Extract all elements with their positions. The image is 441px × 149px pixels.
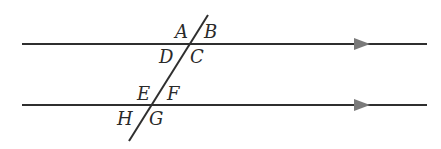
transversal-line xyxy=(129,15,208,141)
angle-label-d: D xyxy=(158,46,174,67)
angle-label-b: B xyxy=(203,21,217,42)
diagram-svg: A B D C E F H G xyxy=(0,0,441,149)
angle-label-h: H xyxy=(116,108,133,129)
arrow-icon-line-1 xyxy=(354,38,370,50)
arrow-icon-line-2 xyxy=(354,99,370,111)
diagram-canvas: A B D C E F H G xyxy=(0,0,441,149)
angle-label-a: A xyxy=(173,21,188,42)
angle-label-f: F xyxy=(166,83,181,104)
angle-label-e: E xyxy=(136,83,150,104)
angle-label-g: G xyxy=(149,108,163,129)
angle-label-c: C xyxy=(190,46,204,67)
